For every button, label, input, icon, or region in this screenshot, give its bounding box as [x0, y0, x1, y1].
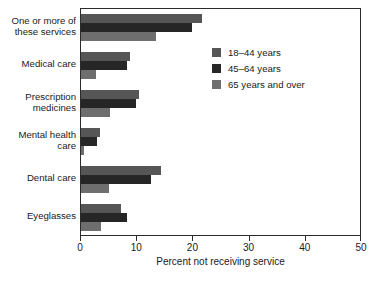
category-label: Medical care — [0, 58, 76, 69]
bar — [81, 222, 101, 231]
category-label: One or more of these services — [0, 15, 76, 38]
chart-legend: 18–44 years45–64 years65 years and over — [212, 44, 305, 92]
bar — [81, 108, 110, 117]
bar-chart: One or more of these servicesMedical car… — [0, 0, 378, 281]
legend-item: 18–44 years — [212, 44, 305, 60]
legend-item-label: 65 years and over — [228, 79, 305, 90]
category-label: Eyeglasses — [0, 210, 76, 221]
bar — [81, 61, 127, 70]
legend-swatch-icon — [212, 80, 221, 89]
x-axis-tick — [192, 236, 193, 241]
legend-item: 45–64 years — [212, 60, 305, 76]
bar — [81, 204, 121, 213]
bar — [81, 14, 202, 23]
x-axis-tick — [249, 236, 250, 241]
legend-swatch-icon — [212, 64, 221, 73]
category-label: Dental care — [0, 172, 76, 183]
bar — [81, 184, 109, 193]
bars-layer — [81, 8, 361, 236]
bar — [81, 137, 97, 146]
x-axis-tick — [80, 236, 81, 241]
x-axis-tick — [136, 236, 137, 241]
x-axis-tick-label: 20 — [187, 242, 198, 253]
x-axis-tick-label: 10 — [131, 242, 142, 253]
legend-item-label: 18–44 years — [228, 47, 281, 58]
bar — [81, 128, 100, 137]
legend-swatch-icon — [212, 48, 221, 57]
legend-item: 65 years and over — [212, 76, 305, 92]
bar — [81, 146, 84, 155]
bar — [81, 70, 96, 79]
category-axis-labels: One or more of these servicesMedical car… — [0, 8, 76, 236]
x-axis-title: Percent not receiving service — [80, 256, 361, 267]
bar — [81, 175, 151, 184]
category-label: Mental health care — [0, 129, 76, 152]
x-axis-tick — [305, 236, 306, 241]
bar — [81, 90, 139, 99]
bar — [81, 52, 130, 61]
bar — [81, 23, 192, 32]
x-axis-tick-label: 0 — [77, 242, 83, 253]
category-label: Prescription medicines — [0, 91, 76, 114]
x-axis-tick-label: 50 — [355, 242, 366, 253]
legend-item-label: 45–64 years — [228, 63, 281, 74]
x-axis-tick-label: 30 — [243, 242, 254, 253]
x-axis-tick-label: 40 — [299, 242, 310, 253]
bar — [81, 32, 156, 41]
bar — [81, 213, 127, 222]
bar — [81, 166, 161, 175]
bar — [81, 99, 136, 108]
x-axis-tick — [360, 236, 361, 241]
